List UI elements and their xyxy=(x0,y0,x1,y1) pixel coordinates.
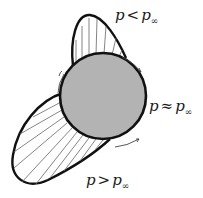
label-operator: > xyxy=(98,171,111,189)
label-operator: < xyxy=(127,6,140,24)
pressure-distribution-diagram: p<p∞ p≈p∞ p>p∞ xyxy=(0,0,203,198)
label-operator: ≈ xyxy=(161,97,174,115)
label-subscript: ∞ xyxy=(122,181,130,191)
label-subscript: ∞ xyxy=(151,16,159,26)
label-pressure: p>p∞ xyxy=(86,173,129,191)
label-subscript: ∞ xyxy=(185,107,193,117)
label-ref: p xyxy=(112,171,122,189)
label-suction: p<p∞ xyxy=(115,8,158,26)
label-var: p xyxy=(86,171,96,189)
cylinder-body xyxy=(60,53,146,139)
label-ref: p xyxy=(141,6,151,24)
label-neutral: p≈p∞ xyxy=(149,99,192,117)
label-var: p xyxy=(149,97,159,115)
label-var: p xyxy=(115,6,125,24)
label-ref: p xyxy=(175,97,185,115)
